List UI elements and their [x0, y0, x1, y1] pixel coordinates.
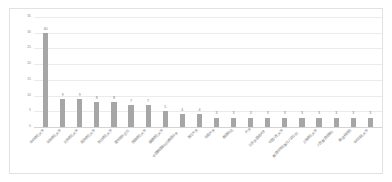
bar-value-label: 3: [250, 112, 252, 116]
bar-slot: 3: [328, 17, 345, 127]
bar-slot: 4: [191, 17, 208, 127]
bar-value-label: 9: [79, 94, 81, 98]
bar-slot: 4: [174, 17, 191, 127]
bar-slot: 8: [105, 17, 122, 127]
bar-value-label: 3: [335, 112, 337, 116]
bar[interactable]: [111, 102, 116, 127]
bar-value-label: 3: [301, 112, 303, 116]
bar-slot: 9: [54, 17, 71, 127]
bar-value-label: 3: [267, 112, 269, 116]
chart-page: 05101520253035 309988775443333333333 华中师…: [0, 0, 392, 182]
bar-value-label: 7: [147, 100, 149, 104]
y-axis-tick-label: 30: [27, 31, 31, 34]
bar-slot: 5: [157, 17, 174, 127]
bar-value-label: 3: [369, 112, 371, 116]
bar-value-label: 3: [284, 112, 286, 116]
bar-slot: 8: [88, 17, 105, 127]
bar-value-label: 9: [62, 94, 64, 98]
bar-value-label: 4: [181, 109, 183, 113]
y-axis-tick-label: 0: [29, 125, 31, 128]
y-axis-tick-label: 35: [27, 15, 31, 18]
chart-frame: 05101520253035 309988775443333333333 华中师…: [9, 8, 383, 174]
bar-value-label: 7: [130, 100, 132, 104]
x-label-slot: 教育研究: [225, 128, 242, 180]
y-axis-tick-label: 15: [27, 78, 31, 81]
bar[interactable]: [128, 105, 133, 127]
y-axis-tick-label: 20: [27, 62, 31, 65]
bar-slot: 30: [37, 17, 54, 127]
bar-value-label: 3: [215, 112, 217, 116]
bar-slot: 3: [345, 17, 362, 127]
bar-slot: 3: [293, 17, 310, 127]
bar-slot: 3: [259, 17, 276, 127]
bar-value-label: 3: [233, 112, 235, 116]
bar-slot: 3: [208, 17, 225, 127]
y-axis-tick-label: 5: [29, 110, 31, 113]
bar-slot: 3: [242, 17, 259, 127]
bar-value-label: 5: [164, 106, 166, 110]
y-axis-tick-label: 25: [27, 47, 31, 50]
bar-slot: 3: [362, 17, 379, 127]
bar[interactable]: [94, 102, 99, 127]
bar-value-label: 30: [44, 28, 48, 32]
bar-slot: 9: [71, 17, 88, 127]
bar-slot: 3: [311, 17, 328, 127]
y-axis-tick-label: 10: [27, 94, 31, 97]
bar[interactable]: [43, 33, 48, 127]
bar-slot: 7: [122, 17, 139, 127]
bar-value-label: 4: [198, 109, 200, 113]
x-axis-category-text: 大学: [245, 128, 252, 135]
bar-slot: 7: [140, 17, 157, 127]
x-label-slot: 华中科技大学: [362, 128, 379, 180]
bar[interactable]: [77, 99, 82, 127]
bar-slot: 3: [276, 17, 293, 127]
x-axis-labels: 华中师范大学华东师范大学北京师范大学南京师范大学东北师范大学图书馆杂志社西南师范…: [34, 128, 382, 180]
x-axis-category-text: 华中师范大学: [29, 130, 45, 146]
plot-area: 05101520253035 309988775443333333333: [34, 17, 382, 127]
bar-value-label: 3: [318, 112, 320, 116]
bar-value-label: 3: [352, 112, 354, 116]
bar[interactable]: [60, 99, 65, 127]
bar-value-label: 8: [113, 97, 115, 101]
bar[interactable]: [146, 105, 151, 127]
bar-value-label: 8: [96, 97, 98, 101]
bar-slot: 3: [225, 17, 242, 127]
bar-series: 309988775443333333333: [34, 17, 382, 127]
